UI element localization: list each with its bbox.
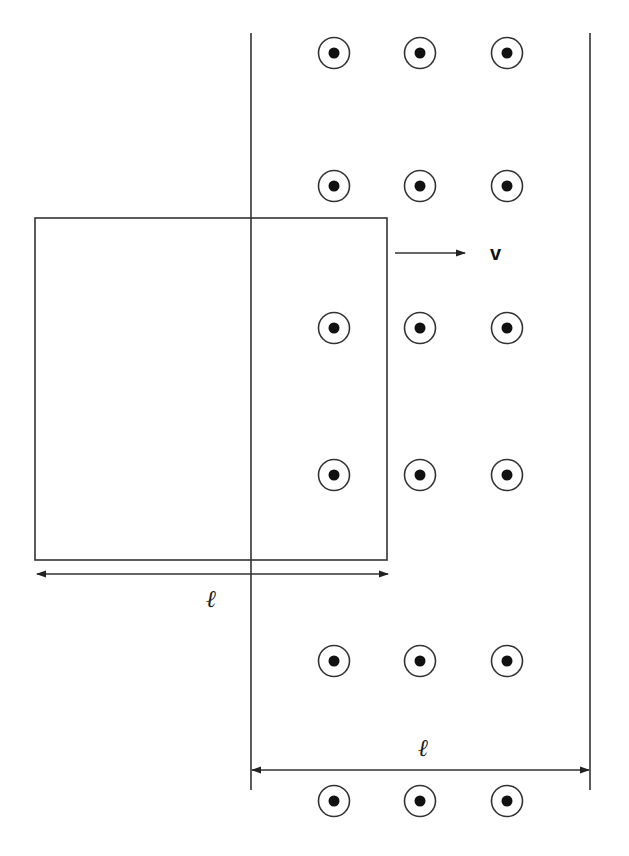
field-out-of-page-icon [405,313,436,344]
field-out-of-page-icon [492,460,523,491]
field-out-of-page-icon [319,38,350,69]
field-out-of-page-icon [319,786,350,817]
field-out-of-page-icon [492,646,523,677]
field-out-of-page-icon [405,646,436,677]
field-out-of-page-icon [319,646,350,677]
field-out-of-page-icon [492,313,523,344]
field-out-of-page-icon [319,313,350,344]
loop-width-label: ℓ [206,585,216,613]
field-out-of-page-icon [319,171,350,202]
diagram-canvas: v ℓ ℓ [0,0,629,856]
field-out-of-page-icon [405,171,436,202]
field-out-of-page-icon [405,786,436,817]
conducting-loop [35,218,387,560]
magnetic-field-symbols [319,38,523,817]
field-out-of-page-icon [492,38,523,69]
field-out-of-page-icon [492,786,523,817]
velocity-label: v [490,242,502,264]
field-out-of-page-icon [492,171,523,202]
field-out-of-page-icon [405,38,436,69]
field-out-of-page-icon [319,460,350,491]
field-width-label: ℓ [418,734,428,762]
field-out-of-page-icon [405,460,436,491]
